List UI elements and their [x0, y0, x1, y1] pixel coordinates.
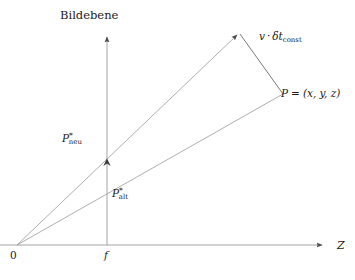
perspective-projection-diagram: Bildebene v·δtconst P=(x, y, z) P*neu P*… — [0, 0, 355, 280]
projected-point-new-label: P*neu — [62, 132, 82, 146]
image-plane-title: Bildebene — [60, 10, 118, 22]
p-alt-subscript: alt — [119, 193, 128, 201]
point-p-label: P=(x, y, z) — [281, 88, 340, 99]
point-p-coordinates: (x, y, z) — [303, 87, 341, 99]
delta-t-symbol: δt — [272, 30, 283, 42]
point-p-equals: = — [291, 87, 300, 99]
p-neu-subscript: neu — [69, 138, 82, 146]
ray-to-point-p — [17, 94, 283, 245]
z-axis-label: Z — [337, 240, 345, 251]
projected-point-old-label: P*alt — [112, 187, 128, 201]
ray-to-displaced-point — [17, 35, 237, 245]
multiplication-dot: · — [267, 30, 270, 42]
origin-label: 0 — [10, 250, 17, 261]
velocity-displacement-label: v·δtconst — [259, 31, 302, 44]
velocity-subscript: const — [283, 36, 302, 44]
velocity-symbol: v — [259, 30, 265, 42]
focal-length-label: f — [104, 250, 108, 261]
point-p-symbol: P — [281, 87, 288, 99]
